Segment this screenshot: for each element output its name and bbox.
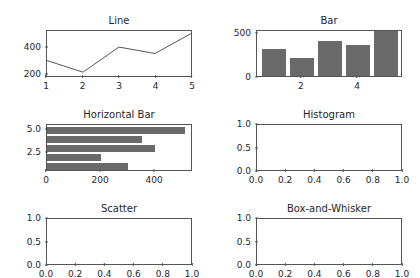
tick-mark [133, 263, 134, 266]
x-tick-label: 3 [116, 77, 122, 91]
plot-area-box-and-whisker [256, 218, 402, 265]
tick-mark [255, 77, 258, 78]
x-tick-label: 0.0 [39, 265, 53, 278]
panel-title-scatter: Scatter [46, 203, 192, 215]
tick-mark [155, 75, 156, 78]
panel-box-and-whisker: Box-and-Whisker 0.00.51.0 0.00.20.40.60.… [256, 218, 402, 265]
bar [47, 154, 101, 162]
plot-area-scatter [46, 218, 192, 265]
x-tick-label: 0.6 [336, 265, 350, 278]
x-tick-label: 1.0 [395, 171, 409, 185]
tick-mark [45, 169, 46, 172]
x-tick-label: 0.8 [366, 171, 380, 185]
x-tick-label: 0.6 [336, 171, 350, 185]
bar [374, 31, 397, 76]
plot-area-bar [256, 30, 402, 77]
x-tick-label: 1.0 [395, 265, 409, 278]
y-tick-label: 1.0 [237, 120, 256, 129]
y-tick-label: 0.5 [237, 143, 256, 152]
tick-mark [82, 75, 83, 78]
tick-mark [45, 47, 48, 48]
tick-mark [343, 263, 344, 266]
x-tick-label: 1 [43, 77, 49, 91]
tick-mark [75, 263, 76, 266]
line-series [47, 31, 191, 76]
tick-mark [300, 75, 301, 78]
x-tick-label: 0.0 [249, 265, 263, 278]
tick-mark [45, 75, 46, 78]
plot-area-horizontal-bar [46, 124, 192, 171]
x-tick-label: 0.4 [307, 171, 321, 185]
tick-mark [357, 75, 358, 78]
tick-mark [255, 263, 256, 266]
tick-mark [255, 147, 258, 148]
x-tick-label: 2 [80, 77, 86, 91]
tick-mark [154, 169, 155, 172]
bar [47, 163, 128, 171]
y-tick-label: 2.5 [27, 148, 46, 157]
y-tick-label: 500 [234, 28, 256, 37]
bar [290, 58, 313, 76]
panel-title-horizontal-bar: Horizontal Bar [46, 109, 192, 121]
tick-mark [45, 263, 46, 266]
x-tick-label: 5 [189, 77, 195, 91]
y-tick-label: 0 [245, 73, 256, 82]
tick-mark [372, 263, 373, 266]
x-tick-label: 0.2 [278, 265, 292, 278]
tick-mark [285, 263, 286, 266]
tick-mark [401, 263, 402, 266]
tick-mark [45, 218, 48, 219]
plot-area-histogram [256, 124, 402, 171]
x-tick-label: 2 [298, 77, 304, 91]
plot-area-line [46, 30, 192, 77]
panel-title-box-and-whisker: Box-and-Whisker [256, 203, 402, 215]
panel-title-line: Line [46, 15, 192, 27]
tick-mark [285, 169, 286, 172]
tick-mark [372, 169, 373, 172]
bar [346, 45, 369, 76]
tick-mark [45, 129, 48, 130]
panel-histogram: Histogram 0.00.51.0 0.00.20.40.60.81.0 [256, 124, 402, 171]
panel-bar: Bar 0500 24 [256, 30, 402, 77]
tick-mark [255, 124, 258, 125]
x-tick-label: 0.2 [68, 265, 82, 278]
x-tick-label: 0.8 [156, 265, 170, 278]
tick-mark [118, 75, 119, 78]
tick-mark [191, 263, 192, 266]
x-tick-label: 0.4 [97, 265, 111, 278]
x-tick-label: 4 [354, 77, 360, 91]
panel-title-histogram: Histogram [256, 109, 402, 121]
bar [47, 145, 155, 153]
tick-mark [191, 75, 192, 78]
tick-mark [162, 263, 163, 266]
x-tick-label: 0 [43, 171, 49, 185]
x-tick-label: 1.0 [185, 265, 199, 278]
bar [318, 41, 341, 76]
tick-mark [314, 263, 315, 266]
tick-mark [45, 152, 48, 153]
y-tick-label: 5.0 [27, 125, 46, 134]
x-tick-label: 0.2 [278, 171, 292, 185]
x-tick-label: 0.6 [126, 265, 140, 278]
tick-mark [104, 263, 105, 266]
tick-mark [255, 218, 258, 219]
x-tick-label: 0.8 [366, 265, 380, 278]
bar [262, 49, 285, 76]
x-tick-label: 400 [146, 171, 163, 185]
x-tick-label: 200 [91, 171, 108, 185]
panel-line: Line 200400 12345 [46, 30, 192, 77]
tick-mark [314, 169, 315, 172]
tick-mark [401, 169, 402, 172]
x-tick-label: 4 [153, 77, 159, 91]
tick-mark [100, 169, 101, 172]
y-tick-label: 0.5 [237, 237, 256, 246]
bar [47, 127, 185, 135]
panel-horizontal-bar: Horizontal Bar 2.55.0 0200400 [46, 124, 192, 171]
bar [47, 136, 142, 144]
figure-canvas: Line 200400 12345 Bar 0500 24 Horizontal… [0, 0, 420, 278]
tick-mark [45, 241, 48, 242]
panel-title-bar: Bar [256, 15, 402, 27]
y-tick-label: 0.5 [27, 237, 46, 246]
y-tick-label: 1.0 [237, 214, 256, 223]
tick-mark [343, 169, 344, 172]
